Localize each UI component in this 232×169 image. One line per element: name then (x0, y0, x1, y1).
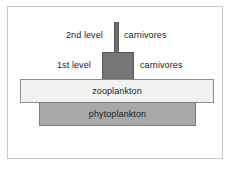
label-phytoplankton: phytoplankton (89, 110, 146, 119)
tier-phytoplankton: phytoplankton (39, 102, 196, 126)
label-primary-carnivores-group: carnivores (140, 61, 183, 70)
label-zooplankton: zooplankton (92, 87, 142, 96)
tier-zooplankton: zooplankton (20, 79, 214, 103)
label-primary-carnivores-level: 1st level (57, 61, 91, 70)
biomass-pyramid-diagram: 2nd level carnivores 1st level carnivore… (0, 0, 232, 169)
label-secondary-carnivores-level: 2nd level (66, 31, 103, 40)
tier-primary-carnivores (102, 52, 134, 80)
label-secondary-carnivores-group: carnivores (124, 31, 167, 40)
pyramid-stack: 2nd level carnivores 1st level carnivore… (0, 0, 232, 169)
tier-secondary-carnivores (114, 22, 119, 53)
